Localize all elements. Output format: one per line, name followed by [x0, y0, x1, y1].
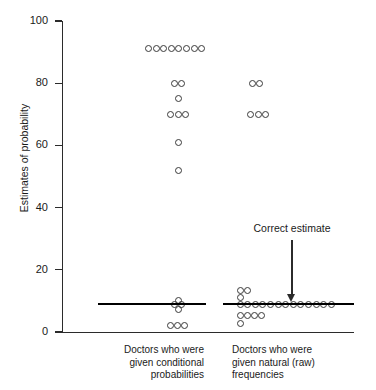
- data-point: [181, 322, 188, 329]
- category-label-natural-frequencies: Doctors who weregiven natural (raw)frequ…: [232, 344, 362, 382]
- correct-estimate-reference-line: [223, 303, 354, 306]
- data-point: [244, 312, 251, 319]
- category-label-line: Doctors who were: [82, 344, 204, 357]
- correct-estimate-annotation-label: Correct estimate: [253, 222, 330, 234]
- data-point: [174, 322, 181, 329]
- category-label-line: frequencies: [232, 369, 362, 382]
- y-tick-80: [55, 83, 62, 84]
- y-axis-title: Estimates of probability: [18, 78, 30, 238]
- category-label-line: Doctors who were: [232, 344, 362, 357]
- data-point: [237, 312, 244, 319]
- chart-root: Estimates of probability 100806040200 Co…: [0, 0, 376, 390]
- y-axis-line: [62, 21, 63, 333]
- data-point: [175, 306, 182, 313]
- x-axis-line: [62, 332, 354, 333]
- data-point: [183, 45, 190, 52]
- data-point: [175, 45, 182, 52]
- data-point: [175, 139, 182, 146]
- data-point: [262, 111, 269, 118]
- data-point: [251, 312, 258, 319]
- data-point: [171, 80, 178, 87]
- data-point: [175, 111, 182, 118]
- data-point: [249, 80, 256, 87]
- data-point: [175, 95, 182, 102]
- data-point: [237, 294, 244, 301]
- y-tick-label-60: 60: [4, 139, 48, 150]
- data-point: [168, 45, 175, 52]
- y-tick-label-80: 80: [4, 77, 48, 88]
- data-point: [191, 45, 198, 52]
- data-point: [182, 111, 189, 118]
- data-point: [247, 111, 254, 118]
- data-point: [237, 320, 244, 327]
- correct-estimate-arrow-shaft: [291, 240, 293, 296]
- y-tick-label-0: 0: [4, 326, 48, 337]
- data-point: [198, 45, 205, 52]
- data-point: [160, 45, 167, 52]
- correct-estimate-arrow-head: [287, 294, 295, 302]
- y-tick-0: [55, 331, 62, 332]
- data-point: [258, 312, 265, 319]
- data-point: [153, 45, 160, 52]
- data-point: [167, 322, 174, 329]
- y-tick-label-20: 20: [4, 264, 48, 275]
- data-point: [145, 45, 152, 52]
- data-point: [175, 167, 182, 174]
- correct-estimate-reference-line: [98, 303, 206, 306]
- data-point: [256, 80, 263, 87]
- data-point: [255, 111, 262, 118]
- category-label-conditional-probabilities: Doctors who weregiven conditionalprobabi…: [82, 344, 204, 382]
- data-point: [178, 80, 185, 87]
- category-label-line: given natural (raw): [232, 357, 362, 370]
- category-label-line: given conditional: [82, 357, 204, 370]
- y-tick-label-100: 100: [4, 15, 48, 26]
- data-point: [167, 111, 174, 118]
- y-tick-20: [55, 269, 62, 270]
- y-tick-label-40: 40: [4, 202, 48, 213]
- y-tick-60: [55, 145, 62, 146]
- data-point: [244, 287, 251, 294]
- y-tick-100: [55, 20, 62, 21]
- category-label-line: probabilities: [82, 369, 204, 382]
- y-tick-40: [55, 207, 62, 208]
